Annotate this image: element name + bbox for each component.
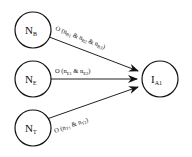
node-ia1: IA1 — [142, 61, 178, 97]
diagram-canvas: NB NE NT IA1 O (nB1 & nB2 & nB3) O (nE1 … — [0, 0, 192, 157]
edge-label-nt: O (nT1 & nT2) — [53, 116, 89, 136]
node-ne: NE — [15, 61, 51, 97]
edge-nt-ia1 — [44, 87, 138, 120]
node-nt: NT — [15, 110, 51, 146]
node-nb: NB — [15, 12, 51, 48]
edge-label-nb: O (nB1 & nB2 & nB3) — [54, 24, 106, 51]
edge-label-ne: O (nE1 & nE2) — [55, 67, 90, 76]
